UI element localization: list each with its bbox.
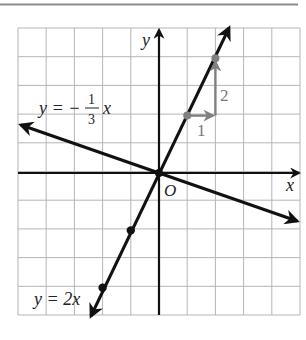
coordinate-graph: y x O 1 2 y = − 1 3 x y = 2x	[0, 0, 306, 340]
rise-label: 2	[220, 86, 229, 105]
y-axis-label: y	[140, 30, 150, 50]
point-neg1-neg2	[127, 226, 135, 234]
equation-neg-third-prefix: y = −	[37, 98, 80, 118]
equation-2x: y = 2x	[32, 289, 80, 309]
equation-fraction-numerator: 1	[88, 92, 95, 107]
point-neg2-neg4	[98, 284, 106, 292]
origin-label: O	[164, 181, 176, 200]
point-1-2	[183, 112, 191, 120]
equation-fraction-denominator: 3	[88, 112, 95, 127]
run-label: 1	[197, 121, 206, 140]
x-axis-label: x	[285, 175, 294, 195]
equation-neg-third-suffix: x	[102, 98, 111, 118]
point-origin	[155, 169, 163, 177]
point-2-4	[211, 54, 219, 62]
